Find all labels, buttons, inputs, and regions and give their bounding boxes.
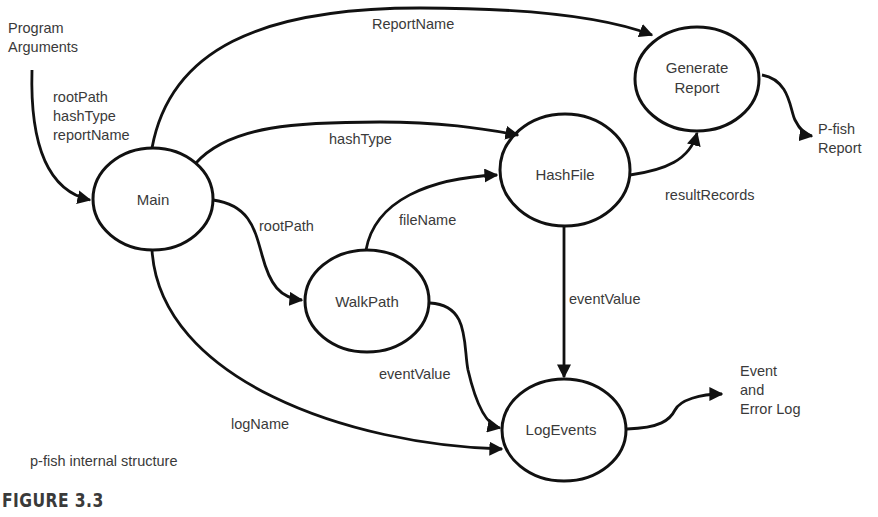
edge-label-eventvalue-walkpath: eventValue (379, 365, 450, 384)
edge-label-eventvalue-hashfile: eventValue (569, 290, 640, 309)
node-walkpath-label: WalkPath (335, 292, 399, 312)
node-hashfile-label: HashFile (535, 165, 594, 185)
edge-label-filename: fileName (399, 211, 456, 230)
external-pfish-report: P-fish Report (818, 120, 862, 158)
edge-label-logname: logName (231, 415, 289, 434)
external-event-log: Event and Error Log (740, 362, 800, 419)
edge-label-reportname: ReportName (372, 15, 454, 34)
external-program-arguments: Program Arguments (8, 19, 78, 57)
edge-main-to-walkpath (213, 200, 302, 300)
node-logevents-label: LogEvents (526, 420, 597, 440)
node-generate-report-label: Generate Report (666, 58, 729, 98)
edge-label-resultrecords: resultRecords (665, 186, 754, 205)
edge-main-to-logevents (152, 250, 502, 449)
edge-logevents-to-log (627, 394, 722, 429)
diagram-canvas (0, 0, 878, 517)
figure-caption: p-fish internal structure (30, 452, 177, 471)
edge-report-to-output (762, 75, 812, 136)
figure-label: FIGURE 3.3 (2, 489, 104, 511)
edge-label-hashtype: hashType (329, 130, 392, 149)
edge-label-args: rootPath hashType reportName (53, 88, 130, 145)
node-main-label: Main (137, 190, 170, 210)
edge-label-rootpath: rootPath (259, 217, 314, 236)
edge-hashfile-to-report (630, 133, 697, 175)
